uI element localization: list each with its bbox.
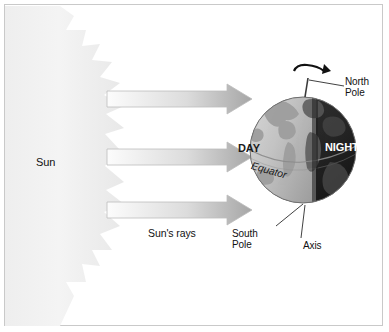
day-label: DAY bbox=[238, 142, 260, 154]
diagram-canvas: Sun Sun's rays DAY NIGHT Equator North P… bbox=[0, 0, 389, 332]
earth-globe bbox=[244, 64, 356, 212]
ray-arrow-top bbox=[107, 84, 252, 114]
ray-arrow-middle bbox=[107, 142, 252, 172]
leader-south-pole bbox=[276, 204, 303, 226]
ray-arrow-bottom bbox=[107, 195, 252, 225]
sun-graphic bbox=[5, 6, 124, 326]
axis-line-north bbox=[305, 78, 308, 97]
rotation-arrow-head bbox=[322, 64, 331, 74]
night-label: NIGHT bbox=[325, 141, 359, 153]
suns-rays-label: Sun's rays bbox=[148, 228, 196, 240]
diagram-graphics bbox=[0, 0, 389, 332]
axis-label: Axis bbox=[303, 240, 322, 251]
south-pole-label: South Pole bbox=[232, 228, 258, 250]
leader-north-pole bbox=[309, 80, 344, 86]
north-pole-label: North Pole bbox=[345, 76, 369, 98]
sun-label: Sun bbox=[36, 156, 55, 168]
sun-ray-arrows bbox=[107, 84, 252, 225]
rotation-arrow bbox=[294, 65, 324, 71]
leader-axis bbox=[301, 205, 305, 238]
